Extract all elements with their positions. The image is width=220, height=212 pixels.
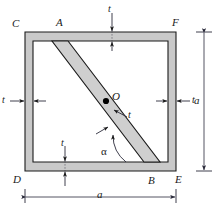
thickness-label-bottom: t	[61, 138, 64, 148]
thickness-label-top: t	[108, 4, 111, 14]
figure-svg	[0, 0, 220, 212]
vertex-label-e: E	[175, 174, 182, 185]
angle-alpha-arc	[113, 135, 126, 162]
centroid-label-o: O	[112, 91, 120, 102]
vertex-label-d: D	[13, 174, 21, 185]
vertex-label-b: B	[148, 175, 155, 186]
dimension-label-width: a	[97, 189, 103, 200]
centroid-point-o	[103, 98, 109, 104]
cross-section-figure: C A F D B E O t t t t t α a a	[0, 0, 220, 212]
dimension-label-height: a	[194, 95, 200, 106]
vertex-label-a: A	[56, 17, 63, 28]
thickness-label-left: t	[2, 95, 5, 105]
thickness-label-diagonal: t	[128, 110, 131, 120]
vertex-label-c: C	[12, 18, 19, 29]
vertex-label-f: F	[172, 17, 179, 28]
angle-label-alpha: α	[101, 146, 107, 157]
